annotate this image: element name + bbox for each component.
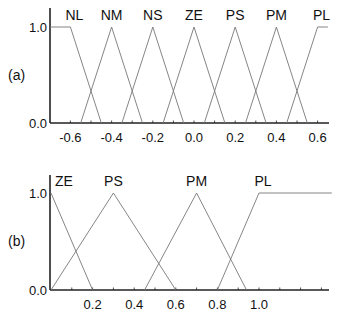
mf-label-pm: PM — [266, 7, 287, 23]
y-tick-label: 0.0 — [29, 283, 47, 298]
mf-label-ps: PS — [104, 173, 123, 189]
mf-label-pl: PL — [254, 173, 271, 189]
membership-ps — [51, 193, 176, 290]
mf-label-ns: NS — [143, 7, 162, 23]
membership-ze — [163, 27, 225, 123]
membership-pm — [145, 193, 247, 290]
x-tick-label: -0.6 — [59, 130, 81, 145]
membership-pl — [287, 27, 328, 123]
panel-label: (b) — [8, 233, 25, 249]
x-tick-label: 0.2 — [84, 297, 102, 312]
x-tick-label: 0.6 — [309, 130, 327, 145]
mf-label-pm: PM — [186, 173, 207, 189]
mf-label-ps: PS — [226, 7, 245, 23]
membership-ns — [122, 27, 184, 123]
x-tick-label: 0.6 — [167, 297, 185, 312]
membership-ps — [204, 27, 266, 123]
x-tick-label: -0.2 — [142, 130, 164, 145]
membership-ze — [51, 193, 93, 290]
panel-b: 0.20.40.60.81.00.01.0(b)ZEPSPMPL — [8, 173, 332, 312]
x-tick-label: 0.0 — [185, 130, 203, 145]
x-tick-label: 0.4 — [267, 130, 285, 145]
x-tick-label: 1.0 — [250, 297, 268, 312]
x-tick-label: -0.4 — [100, 130, 122, 145]
x-tick-label: 0.2 — [226, 130, 244, 145]
mf-label-nm: NM — [101, 7, 123, 23]
y-tick-label: 0.0 — [29, 116, 47, 131]
y-tick-label: 1.0 — [29, 20, 47, 35]
x-tick-label: 0.4 — [125, 297, 143, 312]
panel-label: (a) — [8, 67, 25, 83]
mf-label-nl: NL — [65, 7, 83, 23]
mf-label-pl: PL — [313, 7, 330, 23]
y-tick-label: 1.0 — [29, 186, 47, 201]
mf-label-ze: ZE — [185, 7, 203, 23]
membership-pm — [246, 27, 308, 123]
mf-label-ze: ZE — [55, 173, 73, 189]
membership-nl — [50, 27, 101, 123]
panel-a: -0.6-0.4-0.20.00.20.40.60.01.0(a)NLNMNSZ… — [8, 7, 330, 145]
membership-nm — [81, 27, 143, 123]
membership-pl — [217, 193, 331, 290]
x-tick-label: 0.8 — [208, 297, 226, 312]
membership-function-figure: -0.6-0.4-0.20.00.20.40.60.01.0(a)NLNMNSZ… — [0, 0, 341, 325]
